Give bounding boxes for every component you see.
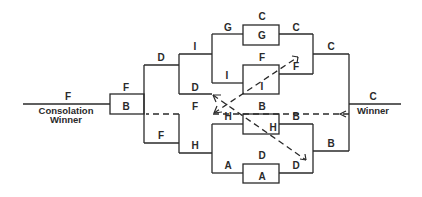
label-b-r2: B: [327, 138, 334, 149]
box-bh-inside: H: [269, 122, 276, 133]
bracket-left-level3: [212, 34, 243, 173]
bracket-right-level2: [313, 54, 349, 151]
label-d-r1: D: [292, 160, 299, 171]
final-box-top-label: F: [123, 82, 129, 93]
box-fi-above: F: [259, 52, 265, 63]
champion-team: C: [369, 91, 376, 102]
consolation-caption-2: Winner: [50, 114, 82, 125]
label-h-2: H: [224, 111, 231, 122]
box-a-above: D: [258, 150, 265, 161]
champion-caption: Winner: [357, 105, 389, 116]
box-a-inside: A: [258, 171, 265, 182]
label-g-2: G: [224, 22, 232, 33]
label-h-1: H: [191, 140, 198, 151]
box-fi-inside: I: [261, 81, 264, 92]
box-g-inside: G: [258, 30, 266, 41]
label-f-1: F: [192, 101, 198, 112]
loser-path-dashed-arrow: [146, 111, 349, 117]
consolation-winner-team: F: [65, 91, 71, 102]
label-i-2: I: [226, 70, 229, 81]
tournament-bracket-diagram: F Consolation Winner F B D F I D F H G I…: [0, 0, 422, 197]
label-a-2: A: [224, 160, 231, 171]
label-f-bottom: F: [158, 130, 164, 141]
label-d-1: D: [191, 82, 198, 93]
label-b-r1: B: [292, 111, 299, 122]
box-bh-above: B: [258, 101, 265, 112]
label-i-1: I: [194, 41, 197, 52]
final-box-bottom-label: B: [122, 101, 129, 112]
bracket-right-level1: [279, 34, 313, 173]
label-d-top: D: [157, 52, 164, 63]
label-f-r1: F: [293, 61, 299, 72]
label-c-r1: C: [292, 22, 299, 33]
box-g-above: C: [258, 11, 265, 22]
label-c-r2: C: [327, 41, 334, 52]
